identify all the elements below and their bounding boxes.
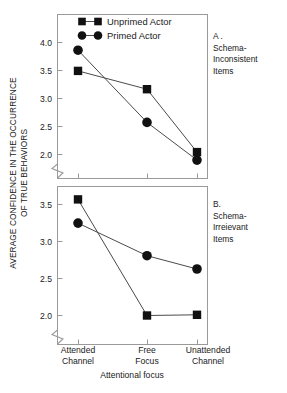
- series-unprimed-actor-panel-a: [74, 67, 201, 157]
- panel-b-caption-line-1: Schema-: [213, 211, 248, 223]
- panel-a-caption-line-1: Schema-: [213, 43, 258, 55]
- panel-b-caption-line-2: Irreievant: [213, 222, 248, 234]
- y-tick-label-a-1: 2.5: [28, 122, 52, 132]
- series-unprimed-actor-panel-b: [74, 195, 201, 319]
- y-axis-title-line-1: AVERAGE CONFIDENCE IN THE OCCURRENCE: [8, 77, 19, 268]
- panel-b-caption-line-3: Items: [213, 234, 248, 246]
- series-primed-actor-panel-b: [73, 218, 202, 274]
- y-axis-title: AVERAGE CONFIDENCE IN THE OCCURRENCE OF …: [0, 0, 36, 345]
- x-tick-label-2-line-0: Unattended: [166, 345, 250, 356]
- y-tick-label-b-1: 2.5: [28, 274, 52, 284]
- y-tick-label-a-2: 3.0: [28, 94, 52, 104]
- series-primed-actor-panel-a: [73, 45, 202, 165]
- panel-b-axis-break-icon: [52, 330, 63, 344]
- panel-a-x-ticks: [79, 174, 198, 179]
- x-tick-label-unattended-channel: Unattended Channel: [166, 345, 250, 368]
- panel-a-caption-line-0: A .: [213, 31, 258, 43]
- x-axis-title: Attentional focus: [52, 370, 212, 380]
- legend: Unprimed Actor Primed Actor: [78, 16, 172, 41]
- panel-b-caption: B. Schema- Irreievant Items: [213, 199, 248, 245]
- y-tick-label-a-0: 2.0: [28, 150, 52, 160]
- panel-a-y-ticks: [58, 43, 63, 155]
- panel-a-caption: A . Schema- Inconsistent Items: [213, 31, 258, 77]
- legend-item-unprimed-actor: Unprimed Actor: [78, 16, 171, 27]
- panel-a-frame: [58, 15, 208, 179]
- panel-a-caption-line-3: Items: [213, 66, 258, 78]
- legend-label-primed-actor: Primed Actor: [107, 30, 161, 41]
- x-tick-label-2-line-1: Channel: [166, 356, 250, 367]
- y-tick-label-a-4: 4.0: [28, 38, 52, 48]
- y-tick-label-a-3: 3.5: [28, 66, 52, 76]
- y-tick-label-b-0: 2.0: [28, 311, 52, 321]
- legend-item-primed-actor: Primed Actor: [78, 30, 161, 41]
- figure-container: AVERAGE CONFIDENCE IN THE OCCURRENCE OF …: [0, 0, 287, 393]
- panel-b-caption-line-0: B.: [213, 199, 248, 211]
- y-tick-label-b-2: 3.0: [28, 237, 52, 247]
- panel-b-y-ticks: [58, 205, 63, 316]
- y-tick-label-b-3: 3.5: [28, 200, 52, 210]
- legend-label-unprimed-actor: Unprimed Actor: [107, 16, 172, 27]
- panel-a-caption-line-2: Inconsistent: [213, 54, 258, 66]
- panel-a-axis-break-icon: [52, 164, 63, 178]
- y-axis-title-line-2: OF TRUE BEHAVIORS: [18, 77, 29, 268]
- panel-b-x-ticks: [79, 340, 198, 345]
- panel-b-frame: [58, 187, 208, 345]
